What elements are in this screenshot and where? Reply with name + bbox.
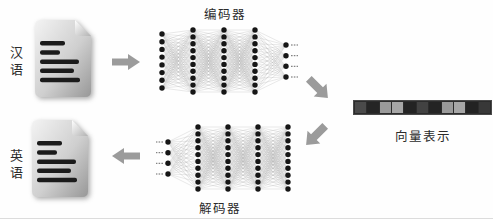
network-node: [225, 186, 230, 191]
vector-label: 向量表示: [353, 126, 492, 145]
network-node: [252, 41, 257, 46]
network-node: [190, 55, 195, 60]
document-text-line: [40, 69, 74, 74]
network-node: [255, 124, 260, 129]
document-text-line: [40, 41, 65, 46]
network-node: [190, 62, 195, 67]
network-node: [283, 53, 288, 58]
document-text-line: [37, 150, 57, 155]
document-text-line: [40, 78, 80, 83]
vector-bar: [353, 100, 492, 115]
network-node: [225, 173, 230, 178]
decoder-network: [156, 120, 300, 196]
vector-cell: [380, 102, 391, 113]
network-node: [252, 48, 257, 53]
vector-cell: [392, 102, 403, 113]
network-node: [221, 62, 226, 67]
network-node: [225, 159, 230, 164]
network-node: [190, 76, 195, 81]
network-node: [225, 166, 230, 171]
network-node: [285, 138, 290, 143]
vector-cell: [442, 102, 453, 113]
network-node: [252, 27, 257, 32]
network-node: [195, 173, 200, 178]
vector-cell: [479, 102, 490, 113]
target-document-icon: [31, 120, 89, 198]
vector-cell: [417, 102, 428, 113]
network-node: [195, 124, 200, 129]
network-node: [221, 55, 226, 60]
network-node: [190, 27, 195, 32]
network-node: [195, 145, 200, 150]
arrow-left-icon: [110, 145, 142, 167]
network-node: [195, 159, 200, 164]
decoder-label: 解码器: [150, 198, 290, 217]
network-node: [285, 186, 290, 191]
network-node: [285, 152, 290, 157]
network-node: [190, 69, 195, 74]
network-node: [252, 82, 257, 87]
network-node: [159, 39, 164, 44]
network-node: [252, 62, 257, 67]
vector-cell: [367, 102, 378, 113]
network-node: [225, 124, 230, 129]
document-text-line: [40, 59, 79, 64]
network-node: [195, 131, 200, 136]
document-text-line: [37, 178, 77, 183]
target-language-label: 英语: [9, 148, 23, 182]
network-node: [159, 54, 164, 59]
network-node: [159, 70, 164, 75]
network-node: [283, 74, 288, 79]
source-language-label: 汉语: [9, 45, 23, 79]
vector-cell: [355, 102, 366, 113]
network-node: [225, 145, 230, 150]
network-node: [159, 31, 164, 36]
network-node: [190, 34, 195, 39]
document-text-line: [40, 50, 60, 55]
network-node: [255, 145, 260, 150]
network-node: [195, 166, 200, 171]
network-node: [190, 41, 195, 46]
network-node: [221, 89, 226, 94]
document-text-line: [37, 159, 76, 164]
network-node: [255, 179, 260, 184]
network-node: [255, 131, 260, 136]
network-node: [159, 78, 164, 83]
network-node: [221, 41, 226, 46]
network-node: [165, 171, 170, 176]
arrow-down-left-icon: [299, 118, 333, 152]
diagram-canvas: 汉语 编码器 向量表示 解码器 英语: [0, 0, 493, 219]
vector-cell: [466, 102, 477, 113]
network-node: [221, 34, 226, 39]
network-node: [252, 55, 257, 60]
network-node: [252, 69, 257, 74]
network-node: [255, 138, 260, 143]
network-node: [221, 27, 226, 32]
network-node: [285, 124, 290, 129]
network-node: [159, 85, 164, 90]
network-node: [190, 89, 195, 94]
network-node: [285, 159, 290, 164]
network-node: [190, 48, 195, 53]
network-node: [285, 179, 290, 184]
source-document-icon: [34, 20, 92, 98]
network-node: [255, 166, 260, 171]
network-node: [165, 139, 170, 144]
arrow-right-icon: [110, 51, 142, 73]
network-node: [255, 152, 260, 157]
network-node: [159, 47, 164, 52]
network-node: [285, 131, 290, 136]
network-node: [159, 62, 164, 67]
network-node: [285, 145, 290, 150]
network-node: [285, 173, 290, 178]
network-node: [221, 48, 226, 53]
network-node: [283, 42, 288, 47]
network-node: [195, 186, 200, 191]
network-node: [221, 82, 226, 87]
document-text-line: [37, 141, 62, 146]
network-node: [252, 34, 257, 39]
vector-cell: [429, 102, 440, 113]
network-node: [252, 89, 257, 94]
network-node: [225, 152, 230, 157]
network-node: [255, 186, 260, 191]
